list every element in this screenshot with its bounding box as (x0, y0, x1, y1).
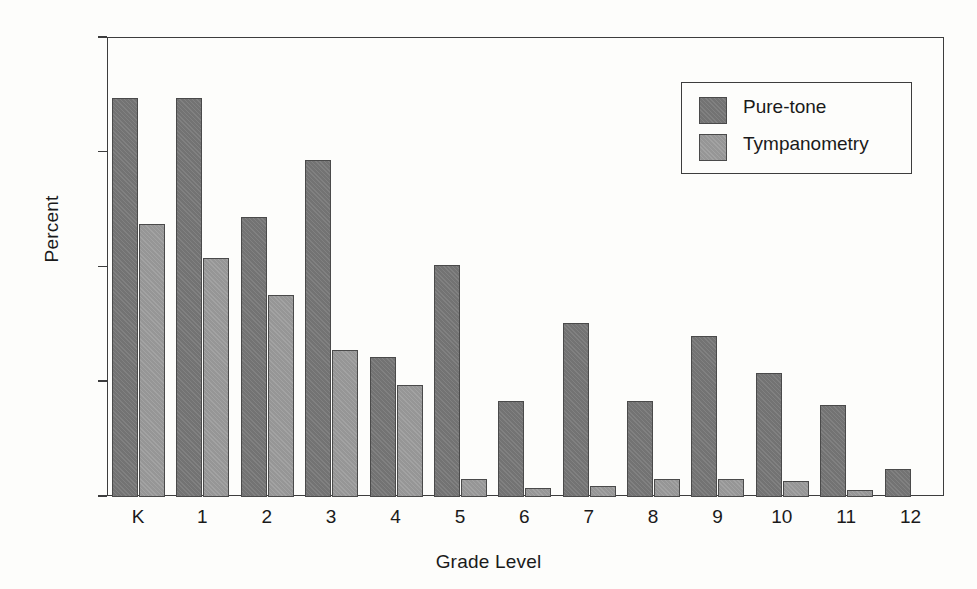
y-tick-mark (98, 151, 107, 153)
y-tick-mark (98, 266, 107, 268)
x-tick-label-8: 8 (623, 506, 683, 528)
x-axis-title: Grade Level (0, 551, 977, 573)
bar-tympanometry-grade-10 (783, 481, 809, 497)
bar-pure-tone-grade-9 (691, 336, 717, 497)
legend-label-pure-tone: Pure-tone (743, 96, 826, 118)
bar-pure-tone-grade-4 (370, 357, 396, 497)
bar-tympanometry-grade-k (139, 224, 165, 497)
bar-pure-tone-grade-7 (563, 323, 589, 497)
x-tick-label-k: K (108, 506, 168, 528)
y-tick-mark (98, 495, 107, 497)
legend-swatch-pure-tone-icon (699, 97, 727, 124)
legend-swatch-tympanometry-icon (699, 134, 727, 161)
x-tick-label-12: 12 (881, 506, 941, 528)
bar-tympanometry-grade-4 (397, 385, 423, 497)
x-tick-label-5: 5 (430, 506, 490, 528)
bar-tympanometry-grade-8 (654, 479, 680, 497)
x-tick-label-1: 1 (172, 506, 232, 528)
plot-area: Pure-tone Tympanometry (107, 37, 944, 496)
bar-pure-tone-grade-6 (498, 401, 524, 497)
x-tick-label-3: 3 (301, 506, 361, 528)
bar-pure-tone-grade-5 (434, 265, 460, 497)
bar-tympanometry-grade-3 (332, 350, 358, 497)
chart-legend: Pure-tone Tympanometry (681, 82, 912, 174)
bar-pure-tone-grade-10 (756, 373, 782, 497)
bar-pure-tone-grade-8 (627, 401, 653, 497)
x-tick-label-6: 6 (494, 506, 554, 528)
bar-pure-tone-grade-11 (820, 405, 846, 497)
x-tick-label-11: 11 (816, 506, 876, 528)
bar-tympanometry-grade-5 (461, 479, 487, 497)
bar-tympanometry-grade-9 (718, 479, 744, 497)
bar-pure-tone-grade-2 (241, 217, 267, 497)
bar-tympanometry-grade-6 (525, 488, 551, 497)
bar-tympanometry-grade-11 (847, 490, 873, 497)
x-tick-label-7: 7 (559, 506, 619, 528)
y-tick-mark (98, 380, 107, 382)
chart-figure: Percent Grade Level 0255075100 K12345678… (0, 0, 977, 589)
y-tick-mark (98, 36, 107, 38)
legend-label-tympanometry: Tympanometry (743, 133, 869, 155)
bar-pure-tone-grade-k (112, 98, 138, 497)
bar-tympanometry-grade-7 (590, 486, 616, 497)
bar-tympanometry-grade-1 (203, 258, 229, 497)
x-tick-label-9: 9 (687, 506, 747, 528)
bar-pure-tone-grade-1 (176, 98, 202, 497)
x-tick-label-2: 2 (237, 506, 297, 528)
x-tick-label-10: 10 (752, 506, 812, 528)
bar-pure-tone-grade-3 (305, 160, 331, 497)
x-tick-label-4: 4 (366, 506, 426, 528)
bar-tympanometry-grade-2 (268, 295, 294, 497)
y-axis-title: Percent (41, 149, 63, 309)
bar-pure-tone-grade-12 (885, 469, 911, 497)
